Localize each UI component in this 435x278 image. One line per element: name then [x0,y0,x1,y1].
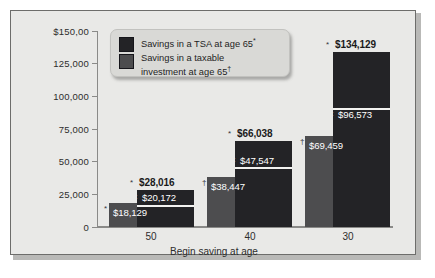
bar-label-tsa-after-tax-30: $96,573 [338,109,372,120]
x-axis-label-50: 50 [121,231,181,242]
x-axis-label-40: 40 [220,231,280,242]
annotation-mark-tsa-after-tax-50: ‡ [133,192,137,201]
y-axis-label-125000: 125,000 [15,58,89,69]
y-tick-25000 [92,194,98,195]
legend-swatch-dark-icon [119,37,134,52]
legend-label-taxable: Savings in a taxable investment at age 6… [141,53,231,77]
bar-label-taxable-50: $18,129 [113,207,147,218]
y-axis-label-75000: 75,000 [15,124,89,135]
y-tick-100000 [92,96,98,97]
annotation-mark-taxable-40: † [202,178,206,187]
legend-swatch-gray-icon [119,54,134,69]
bar-label-tsa-after-tax-40: $47,547 [240,155,274,166]
bar-label-taxable-30: $69,459 [309,140,343,151]
legend-label-tsa-text: Savings in a TSA at age 65 [141,39,253,49]
legend-item-tsa: Savings in a TSA at age 65* [119,36,256,52]
legend-item-taxable: Savings in a taxable investment at age 6… [119,53,231,77]
annotation-mark-tsa-after-tax-30: ‡ [329,109,333,118]
y-axis-label-150000: $150,00 [15,26,89,37]
y-tick-50000 [92,161,98,162]
annotation-mark-taxable-30: † [300,137,304,146]
annotation-mark-tsa-total-50: * [130,178,133,187]
separator-line-40 [235,167,292,169]
annotation-mark-taxable-50: * [104,204,107,213]
bar-label-tsa-total-30: $134,129 [335,39,376,50]
y-axis-label-50000: 50,000 [15,156,89,167]
chart-screenshot: $150,00 125,000 100,000 75,000 50,000 25… [0,0,435,278]
annotation-mark-tsa-after-tax-40: ‡ [231,155,235,164]
chart-panel: $150,00 125,000 100,000 75,000 50,000 25… [10,10,416,255]
bar-label-tsa-after-tax-50: $20,172 [142,192,176,203]
annotation-mark-tsa-total-30: * [326,40,329,49]
legend-label-tsa: Savings in a TSA at age 65* [141,36,256,50]
x-axis-label-30: 30 [318,231,378,242]
y-tick-150000 [92,31,98,32]
y-axis-label-100000: 100,000 [15,91,89,102]
legend-marker-tsa: * [253,37,256,44]
annotation-mark-tsa-total-40: * [228,129,231,138]
bar-label-tsa-total-50: $28,016 [139,177,174,188]
y-axis-label-25000: 25,000 [15,189,89,200]
plot-area: $150,00 125,000 100,000 75,000 50,000 25… [11,11,417,256]
legend-marker-taxable: † [227,65,231,72]
y-axis-label-0: 0 [15,222,89,233]
x-axis-title: Begin saving at age [11,246,417,257]
y-tick-0 [92,227,98,228]
bar-label-tsa-total-40: $66,038 [237,128,272,139]
bar-label-taxable-40: $38,447 [211,181,245,192]
y-tick-125000 [92,63,98,64]
chart-legend: Savings in a TSA at age 65* Savings in a… [110,29,290,77]
legend-label-taxable-text: Savings in a taxable investment at age 6… [141,53,227,77]
y-tick-75000 [92,129,98,130]
